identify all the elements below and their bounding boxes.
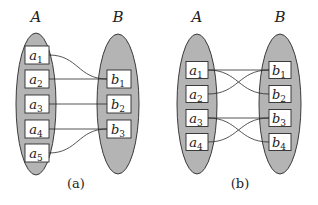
node-a1: a1 — [186, 62, 208, 80]
node-b2: b2 — [269, 86, 291, 104]
set-a-label: A — [29, 8, 42, 26]
caption: (a) — [67, 176, 85, 191]
bipartite-diagram-figure: ABa1a2a3a4a5b1b2b3(a) ABa1a2a3a4b1b2b3b4… — [0, 0, 318, 205]
caption: (b) — [231, 176, 249, 191]
node-a2: a2 — [25, 70, 49, 89]
node-b1: b1 — [107, 70, 131, 89]
node-a5: a5 — [25, 144, 49, 163]
set-b-label: B — [111, 8, 123, 26]
node-b4: b4 — [269, 134, 291, 152]
node-b3: b3 — [107, 120, 131, 139]
set-b-label: B — [273, 8, 285, 26]
node-a2: a2 — [186, 86, 208, 104]
diagram-b: ABa1a2a3a4b1b2b3b4(b) — [177, 8, 301, 191]
node-a4: a4 — [25, 120, 49, 139]
set-a-label: A — [190, 8, 203, 26]
node-a3: a3 — [25, 95, 49, 114]
node-a4: a4 — [186, 134, 208, 152]
set-a-ellipse — [177, 34, 217, 174]
node-a3: a3 — [186, 110, 208, 128]
node-a1: a1 — [25, 46, 49, 65]
set-b-ellipse — [259, 34, 301, 174]
node-b3: b3 — [269, 110, 291, 128]
diagram-a: ABa1a2a3a4a5b1b2b3(a) — [16, 8, 139, 191]
node-b1: b1 — [269, 62, 291, 80]
node-b2: b2 — [107, 95, 131, 114]
edges — [49, 55, 107, 153]
